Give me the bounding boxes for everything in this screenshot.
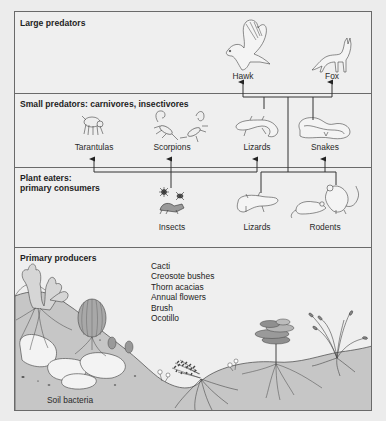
hawk-icon	[226, 20, 270, 70]
lizard-plant-eater-icon	[237, 192, 278, 212]
small-cactus-icon	[108, 337, 116, 349]
label-soil-bacteria: Soil bacteria	[47, 395, 93, 405]
label-scorpions: Scorpions	[153, 142, 190, 152]
scorpion-icon	[154, 111, 178, 140]
producer-item: Ocotillo	[151, 313, 214, 323]
rodents-icon	[291, 185, 358, 218]
snake-icon	[299, 118, 350, 139]
producer-item: Brush	[151, 303, 214, 313]
scorpion-icon-2	[180, 112, 208, 143]
small-cactus-icon	[125, 341, 133, 353]
producer-item: Thorn acacias	[151, 282, 214, 292]
tarantula-icon	[82, 116, 103, 135]
producers-list: Cacti Creosote bushes Thorn acacias Annu…	[151, 261, 214, 323]
producer-item: Cacti	[151, 261, 214, 271]
label-fox: Fox	[325, 71, 339, 81]
label-snakes: Snakes	[311, 142, 339, 152]
fox-icon	[312, 38, 351, 72]
label-hawk: Hawk	[233, 71, 254, 81]
lizard-icon	[236, 116, 278, 137]
label-tarantulas: Tarantulas	[75, 142, 114, 152]
food-web-illustration	[0, 0, 386, 421]
label-rodents: Rodents	[309, 222, 340, 232]
food-web-connectors	[94, 82, 336, 193]
label-lizards-plant-eater: Lizards	[244, 222, 271, 232]
label-insects: Insects	[159, 222, 186, 232]
producer-item: Creosote bushes	[151, 271, 214, 281]
insects-icon	[159, 187, 184, 214]
producer-item: Annual flowers	[151, 292, 214, 302]
label-lizards-predator: Lizards	[244, 142, 271, 152]
